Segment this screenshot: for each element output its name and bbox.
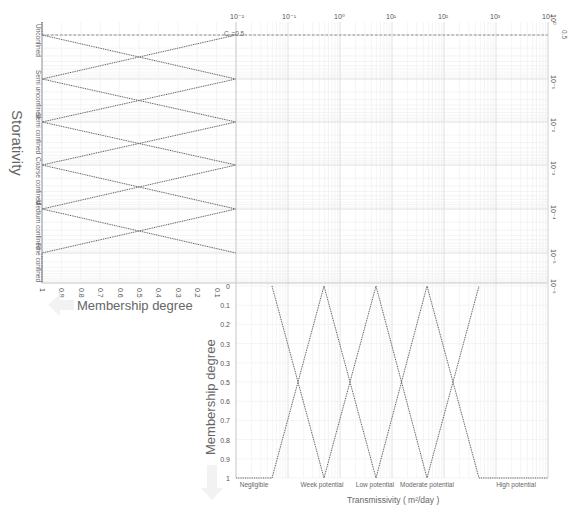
grid-top-right [42, 22, 548, 478]
grid-top-right-major [42, 22, 548, 478]
left-x-tick-label: 0.2 [194, 288, 201, 298]
right-tick-label: 10⁻⁴ [550, 205, 557, 220]
top-tick-label: 10³ [490, 13, 501, 20]
top-tick-label: 10² [438, 13, 449, 20]
transmissivity-class-label: High potential [496, 481, 536, 489]
left-x-tick-label: 0.1 [214, 288, 221, 298]
bottom-y-ticks: 00.10.20.30.30.50.60.70.80.91 [220, 283, 230, 482]
membership-bottom-title: Membership degree [203, 339, 218, 455]
top-tick-label: 10⁻¹ [282, 13, 297, 20]
left-x-tick-label: 1 [39, 288, 46, 292]
right-y-ticks: 10⁰10⁻¹10⁻²10⁻³10⁻⁴10⁻⁵10⁻⁶ [550, 14, 557, 294]
transmissivity-class-label: Moderate potential [400, 481, 454, 489]
c0-annotation: C₀=0.5 [224, 30, 245, 37]
left-x-tick-label: 0.6 [117, 288, 124, 298]
left-x-tick-label: 0.4 [155, 288, 162, 298]
storativity-class-label: Fine confined [35, 243, 42, 282]
bottom-y-tick-label: 0.9 [220, 456, 230, 463]
right-tick-label: 10⁻⁵ [550, 249, 557, 264]
left-x-tick-label: 0.3 [175, 288, 182, 298]
transmissivity-axis-title: Transmissivity ( m²/day ) [347, 495, 439, 505]
chart-canvas: 10⁻²10⁻¹10⁰10¹10²10³10⁴ 10⁰10⁻¹10⁻²10⁻³1… [0, 0, 576, 518]
down-arrow-icon [201, 465, 223, 500]
membership-left-title: Membership degree [77, 298, 193, 313]
right-tick-label: 10⁻³ [550, 161, 557, 176]
storativity-class-labels: UnconfinedSemi unconfinedSemi confinedCo… [35, 24, 42, 282]
bottom-y-tick-label: 1 [226, 475, 230, 482]
half-annotation: 0.5 [561, 30, 568, 39]
left-x-tick-label: 0.7 [97, 288, 104, 298]
transmissivity-class-label: Low potential [356, 481, 395, 489]
grid-left [42, 22, 236, 283]
bottom-y-tick-label: 0.5 [220, 379, 230, 386]
bottom-y-tick-label: 0.3 [220, 360, 230, 367]
storativity-class-label: Semi unconfined [35, 70, 42, 119]
bottom-y-tick-label: 0.7 [220, 417, 230, 424]
bottom-y-tick-label: 0.3 [220, 341, 230, 348]
top-tick-label: 10¹ [386, 13, 397, 20]
right-tick-label: 10⁻² [550, 118, 557, 133]
right-tick-label: 10⁰ [550, 14, 557, 25]
storativity-axis-title: Storativity [9, 110, 26, 176]
storativity-class-label: Semi confined [35, 113, 42, 155]
left-x-tick-label: 0.8 [78, 288, 85, 298]
transmissivity-class-labels: NegligibleWeek potentialLow potentialMod… [240, 481, 537, 489]
right-tick-label: 10⁻¹ [550, 75, 557, 90]
bottom-y-tick-label: 0.2 [220, 321, 230, 328]
storativity-class-label: Coarse confined [35, 157, 42, 205]
bottom-y-tick-label: 0 [226, 283, 230, 290]
bottom-y-tick-label: 0.1 [220, 302, 230, 309]
right-tick-label: 10⁻⁶ [550, 279, 557, 294]
bottom-y-tick-label: 0.6 [220, 398, 230, 405]
bottom-y-tick-label: 0.8 [220, 437, 230, 444]
left-x-tick-label: 0.5 [136, 288, 143, 298]
transmissivity-class-label: Week potential [301, 481, 344, 489]
storativity-class-label: Unconfined [35, 24, 42, 57]
top-tick-label: 10⁰ [334, 13, 345, 20]
transmissivity-class-label: Negligible [240, 481, 269, 489]
left-x-ticks: 10.90.80.70.60.50.40.30.20.1 [39, 288, 221, 298]
top-tick-label: 10⁻² [230, 13, 245, 20]
top-x-ticks: 10⁻²10⁻¹10⁰10¹10²10³10⁴ [230, 13, 553, 20]
